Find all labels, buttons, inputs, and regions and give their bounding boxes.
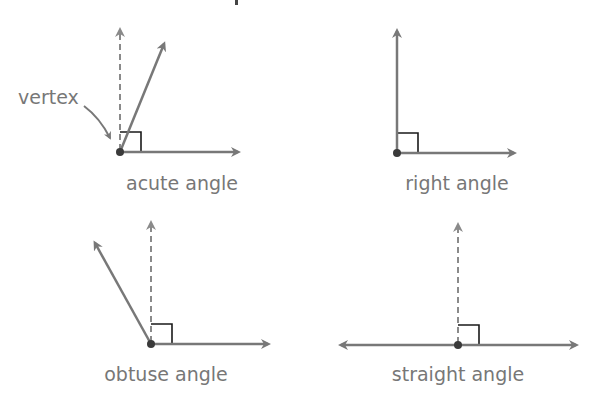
obtuse-angle-figure: obtuse angle xyxy=(95,223,268,385)
vertex-label: vertex xyxy=(18,86,79,108)
vertex-annotation: vertex xyxy=(18,86,110,138)
right-angle-figure: right angle xyxy=(393,31,514,194)
acute-angle-figure: acute angle xyxy=(116,30,238,194)
right-angle-square xyxy=(397,133,418,153)
vertex-point xyxy=(393,149,401,157)
right-angle-label: right angle xyxy=(405,172,508,194)
right-angle-square xyxy=(151,324,172,344)
right-angle-square xyxy=(458,325,479,345)
straight-angle-label: straight angle xyxy=(392,363,524,385)
obtuse-ray xyxy=(95,243,151,344)
angles-diagram: acute angle vertex right angle obtuse an… xyxy=(0,0,595,398)
top-crop-artifact xyxy=(235,0,238,5)
vertex-point xyxy=(454,341,462,349)
acute-angle-label: acute angle xyxy=(126,172,238,194)
vertex-point xyxy=(147,340,155,348)
straight-angle-figure: straight angle xyxy=(341,225,576,385)
vertex-point xyxy=(116,148,124,156)
acute-ray xyxy=(120,44,164,152)
vertex-pointer-arrow xyxy=(84,106,110,138)
obtuse-angle-label: obtuse angle xyxy=(104,363,228,385)
